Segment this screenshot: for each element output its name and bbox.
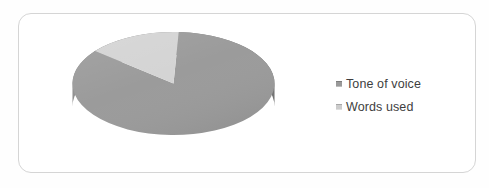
legend-label: Tone of voice: [346, 77, 421, 92]
chart-legend: Tone of voice Words used: [336, 77, 421, 115]
chart-image: Tone of voice Words used: [0, 0, 489, 188]
legend-marker-icon: [336, 81, 342, 87]
legend-item-tone-of-voice: Tone of voice: [336, 77, 421, 92]
legend-label: Words used: [346, 100, 413, 115]
legend-marker-icon: [336, 104, 342, 110]
legend-item-words-used: Words used: [336, 100, 421, 115]
